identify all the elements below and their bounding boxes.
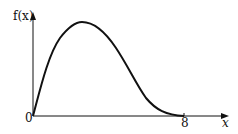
chart-canvas: [0, 0, 238, 134]
y-axis-label: f(x): [13, 10, 34, 22]
origin-label: 0: [25, 112, 33, 124]
x-tick-label-8: 8: [181, 117, 189, 129]
x-axis-label: x: [222, 117, 229, 129]
density-curve: [33, 22, 184, 116]
